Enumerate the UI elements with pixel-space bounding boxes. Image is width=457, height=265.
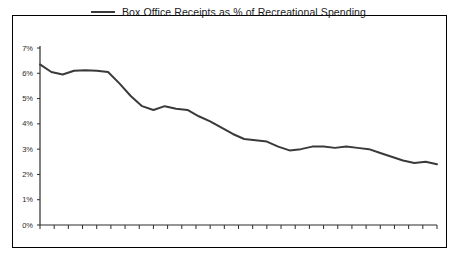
data-series-line xyxy=(40,64,437,164)
y-axis-tick-label: 6% xyxy=(22,69,33,78)
chart-figure: Box Office Receipts as % of Recreational… xyxy=(0,0,457,265)
y-axis-tick-label: 2% xyxy=(22,170,33,179)
y-axis-tick-label: 5% xyxy=(22,94,33,103)
y-axis-tick-label: 0% xyxy=(22,221,33,230)
y-axis-tick-label: 4% xyxy=(22,119,33,128)
plot-area: 0%1%2%3%4%5%6%7% xyxy=(0,0,457,265)
y-axis-tick-label: 3% xyxy=(22,145,33,154)
y-axis-tick-label: 7% xyxy=(22,44,33,53)
x-axis-tick-marks xyxy=(40,225,437,229)
y-axis-tick-label: 1% xyxy=(22,195,33,204)
y-axis-tick-labels: 0%1%2%3%4%5%6%7% xyxy=(22,44,33,230)
